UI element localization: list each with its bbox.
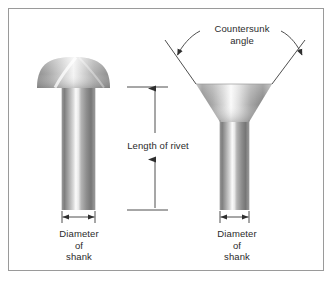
- diameter-dimension-left: [62, 211, 95, 223]
- left-rivet-round-head: [37, 57, 110, 210]
- left-rivet-shank: [62, 88, 95, 210]
- countersunk-angle-lines: [165, 40, 305, 84]
- right-rivet-countersunk-head: [196, 84, 272, 210]
- rivet-diagram-figure: Countersunk angle Length of rivet Diamet…: [0, 0, 334, 281]
- right-rivet-head-shade: [196, 84, 272, 122]
- diameter-right-arrow-right: [242, 214, 249, 219]
- diameter-left-arrow-right: [88, 214, 95, 219]
- length-of-rivet-label: Length of rivet: [112, 140, 204, 152]
- diameter-right-arrow-left: [221, 214, 228, 219]
- angle-line-left: [165, 40, 196, 84]
- diameter-left-arrow-left: [63, 214, 70, 219]
- angle-line-right: [272, 40, 305, 84]
- diameter-of-shank-label-right: Diameter of shank: [196, 228, 278, 263]
- diameter-dimension-right: [220, 211, 249, 223]
- countersunk-angle-label: Countersunk angle: [196, 23, 288, 46]
- diameter-of-shank-label-left: Diameter of shank: [38, 228, 120, 263]
- right-rivet-shank: [220, 120, 249, 210]
